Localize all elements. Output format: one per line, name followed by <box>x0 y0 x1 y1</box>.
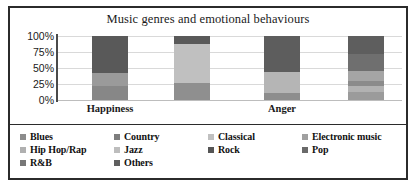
y-axis-tick-labels: 100%75%50%25%0% <box>14 36 56 100</box>
legend-swatch-icon <box>20 160 26 166</box>
bar-segment-others[interactable] <box>92 86 128 100</box>
legend-item-jazz[interactable]: Jazz <box>114 143 208 156</box>
bar-anger-3[interactable] <box>348 36 384 100</box>
bar-segment-others[interactable] <box>264 93 300 100</box>
bar-happiness-0[interactable] <box>92 36 128 100</box>
legend-label: Pop <box>312 144 328 155</box>
legend-item-hip-hop-rap[interactable]: Hip Hop/Rap <box>20 143 114 156</box>
legend-item-others[interactable]: Others <box>114 156 208 169</box>
legend-item-pop[interactable]: Pop <box>302 143 396 156</box>
bar-anger-2[interactable] <box>264 36 300 100</box>
bar-segment-rock[interactable] <box>92 36 128 73</box>
bar-segment-electronic-music[interactable] <box>348 54 384 71</box>
legend-swatch-icon <box>20 134 26 140</box>
legend-item-classical[interactable]: Classical <box>208 130 302 143</box>
legend-label: Hip Hop/Rap <box>30 144 86 155</box>
bar-segment-others[interactable] <box>174 83 210 100</box>
gridline-0 <box>58 100 402 101</box>
chart-title: Music genres and emotional behaviours <box>10 12 406 27</box>
bar-segment-rock[interactable] <box>264 36 300 72</box>
legend-item-rock[interactable]: Rock <box>208 143 302 156</box>
legend-label: Electronic music <box>312 131 382 142</box>
bar-segment-classical[interactable] <box>174 44 210 84</box>
x-axis-label-happiness: Happiness <box>87 103 134 114</box>
plot-area <box>58 36 402 100</box>
legend-divider <box>10 124 406 125</box>
bar-segment-pop[interactable] <box>348 71 384 81</box>
legend-swatch-icon <box>208 134 214 140</box>
legend-swatch-icon <box>114 160 120 166</box>
bar-segment-others[interactable] <box>348 92 384 100</box>
chart-container: Music genres and emotional behaviours 10… <box>8 6 408 180</box>
bar-segment-rock[interactable] <box>348 36 384 54</box>
legend-item-r-b[interactable]: R&B <box>20 156 114 169</box>
y-axis-tick-100: 100% <box>27 30 54 42</box>
legend-label: R&B <box>30 157 52 168</box>
bar-happiness-1[interactable] <box>174 36 210 100</box>
bar-segment-rock[interactable] <box>174 36 210 44</box>
legend-label: Country <box>124 131 159 142</box>
bar-segment-pop[interactable] <box>264 72 300 92</box>
legend-label: Blues <box>30 131 53 142</box>
y-axis-tick-75: 75% <box>33 46 54 58</box>
legend-swatch-icon <box>114 134 120 140</box>
x-axis-category-labels: HappinessAnger <box>58 103 402 119</box>
legend-swatch-icon <box>114 147 120 153</box>
legend-item-blues[interactable]: Blues <box>20 130 114 143</box>
bar-segment-pop[interactable] <box>92 73 128 86</box>
legend-swatch-icon <box>20 147 26 153</box>
legend-swatch-icon <box>302 147 308 153</box>
legend-swatch-icon <box>302 134 308 140</box>
legend-label: Jazz <box>124 144 142 155</box>
legend-label: Rock <box>218 144 240 155</box>
legend-label: Others <box>124 157 153 168</box>
y-axis-tick-0: 0% <box>39 94 54 106</box>
legend-item-country[interactable]: Country <box>114 130 208 143</box>
chart-legend: BluesCountryClassicalElectronic musicHip… <box>10 128 406 169</box>
legend-swatch-icon <box>208 147 214 153</box>
legend-label: Classical <box>218 131 255 142</box>
y-axis-tick-25: 25% <box>33 78 54 90</box>
x-axis-label-anger: Anger <box>268 103 296 114</box>
legend-item-electronic-music[interactable]: Electronic music <box>302 130 396 143</box>
y-axis-tick-50: 50% <box>33 62 54 74</box>
